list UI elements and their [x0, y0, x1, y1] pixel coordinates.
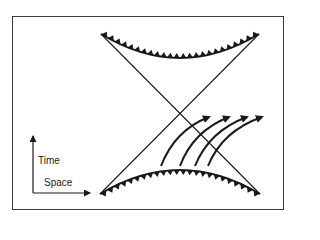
top-boundary-arc — [101, 32, 259, 58]
sawtooth-tooth — [180, 53, 186, 58]
sawtooth-tooth — [167, 53, 173, 58]
sawtooth-tooth — [167, 170, 173, 175]
arrow-2 — [180, 117, 229, 166]
sawtooth-tooth — [174, 53, 180, 58]
sawtooth-tooth — [187, 170, 193, 175]
arrow-3 — [195, 117, 247, 166]
sawtooth-tooth — [187, 53, 193, 58]
sawtooth-tooth — [194, 171, 200, 176]
time-axis-label: Time — [38, 156, 60, 166]
sawtooth-tooth — [180, 170, 186, 175]
curved-arrows — [161, 117, 262, 166]
space-axis-label: Space — [44, 178, 72, 188]
arrow-4 — [208, 117, 262, 166]
sawtooth-tooth — [160, 171, 166, 176]
sawtooth-tooth — [174, 170, 180, 175]
bottom-boundary-arc — [100, 170, 260, 196]
sawtooth-tooth — [193, 52, 199, 57]
sawtooth-tooth — [161, 52, 167, 57]
arrow-1 — [161, 117, 209, 166]
